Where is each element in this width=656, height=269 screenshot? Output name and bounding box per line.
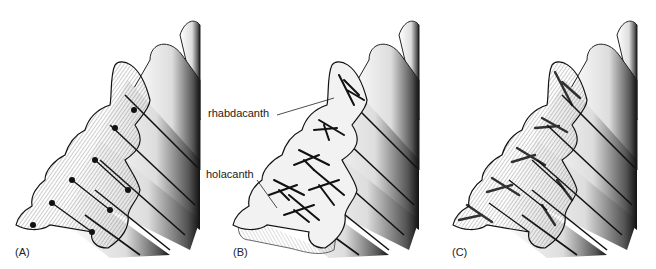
panel-label-a: (A) — [15, 246, 30, 258]
fibrous-spine-illustration — [0, 0, 219, 269]
panel-c: (C) — [437, 0, 656, 269]
rhabdacanth-holacanth-illustration — [219, 0, 438, 269]
panel-label-c: (C) — [452, 246, 467, 258]
holacanth-label: holacanth — [206, 168, 254, 180]
panel-a: (A) — [0, 0, 219, 269]
panel-b: rhabdacanth holacanth (B) — [219, 0, 438, 269]
rhabdacanth-label: rhabdacanth — [208, 107, 269, 119]
combined-spine-illustration — [437, 0, 656, 269]
panel-label-b: (B) — [233, 246, 248, 258]
